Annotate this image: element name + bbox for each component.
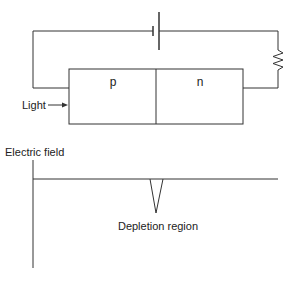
n-label: n	[197, 75, 204, 89]
electric-field-label: Electric field	[5, 146, 64, 158]
depletion-field-spike	[150, 179, 163, 213]
light-arrow-head	[62, 103, 68, 108]
battery-icon	[153, 12, 159, 50]
p-label: p	[110, 75, 117, 89]
depletion-region-label: Depletion region	[118, 220, 198, 232]
bottom-right-wire	[243, 70, 278, 88]
diagram-canvas: p n Light Electric field Depletion regio…	[0, 0, 296, 282]
resistor-icon	[273, 50, 283, 70]
top-left-wire	[33, 31, 153, 88]
top-right-wire	[159, 31, 278, 50]
light-label: Light	[22, 99, 46, 111]
